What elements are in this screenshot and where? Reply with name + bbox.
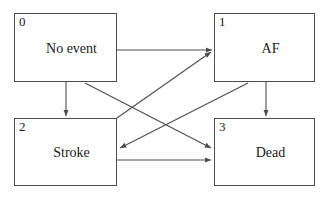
state-transition-diagram: 0 No event 1 AF 2 Stroke 3 Dead [0,0,332,199]
state-label-stroke: Stroke [15,145,116,161]
state-node-dead[interactable]: 3 Dead [214,118,315,186]
state-index-0: 0 [19,15,26,29]
state-node-stroke[interactable]: 2 Stroke [14,118,117,186]
arrow-stroke-to-af [117,52,211,118]
state-label-no-event: No event [15,41,116,57]
state-node-no-event[interactable]: 0 No event [14,13,117,82]
state-index-3: 3 [219,120,226,134]
state-node-af[interactable]: 1 AF [214,13,315,82]
state-label-dead: Dead [215,145,314,161]
state-index-2: 2 [19,120,26,134]
state-index-1: 1 [219,15,226,29]
state-label-af: AF [215,41,314,57]
